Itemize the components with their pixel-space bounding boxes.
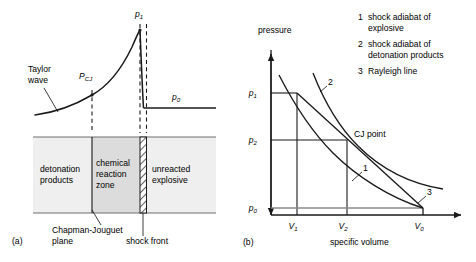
- y-tick-p1: p1: [248, 88, 257, 99]
- curve-3-marker-leader: [418, 196, 426, 203]
- panel-a: Taylor wave PCJ p1 p0 detonation product…: [12, 9, 216, 246]
- curve-3-marker: 3: [427, 187, 432, 197]
- curve-2-marker: 2: [328, 77, 333, 87]
- panel-a-tag: (a): [12, 236, 23, 246]
- p1-label-sub: 1: [140, 13, 143, 20]
- shock-front-label: shock front: [126, 236, 169, 246]
- panel-b: pressure specific volume p1 p2 p0 V1 V2 …: [243, 12, 461, 247]
- y-tick-p0-sub: 0: [254, 207, 258, 214]
- shock-front-band: [140, 137, 147, 213]
- chapman-jouguet-plane-label-line2: plane: [52, 236, 73, 246]
- p0-label: p0: [171, 92, 181, 103]
- curve-1-marker: 1: [363, 163, 368, 173]
- figure-root: Taylor wave PCJ p1 p0 detonation product…: [0, 0, 476, 262]
- p1-point-marker: [138, 28, 141, 31]
- region-detonation-products-line1: detonation: [40, 164, 80, 174]
- legend-item-3-line1: Rayleigh line: [368, 66, 417, 76]
- x-axis-label: specific volume: [330, 237, 389, 247]
- cj-point-label: CJ point: [354, 129, 386, 139]
- curve-3-rayleigh-line: [297, 93, 423, 208]
- legend-item-2-line1: shock adiabat of: [368, 39, 431, 49]
- x-tick-v0: V0: [414, 221, 424, 232]
- p0-label-sub: 0: [177, 96, 181, 103]
- legend-item-2-number: 2: [358, 39, 363, 49]
- legend-item-3-number: 3: [358, 66, 363, 76]
- panel-b-tag: (b): [243, 237, 254, 247]
- y-tick-p2-sub: 2: [253, 139, 258, 146]
- curve-2-marker-leader: [320, 86, 327, 92]
- p-cj-label: PCJ: [79, 71, 93, 82]
- x-tick-v0-sub: 0: [420, 225, 424, 232]
- y-tick-p0: p0: [248, 203, 258, 214]
- panel-a-pressure-profile: [35, 24, 216, 133]
- legend-item-1-line2: explosive: [368, 23, 404, 33]
- region-unreacted-explosive-line1: unreacted: [152, 164, 190, 174]
- panel-b-construction-lines: [271, 93, 423, 215]
- p1-label: p1: [134, 9, 143, 20]
- region-chemical-reaction-zone-line2: reaction: [96, 169, 127, 179]
- y-axis-label: pressure: [258, 25, 292, 35]
- legend-item-2-line2: detonation products: [368, 50, 444, 60]
- region-chemical-reaction-zone-line3: zone: [96, 180, 115, 190]
- p-cj-label-sub: CJ: [85, 75, 93, 82]
- legend-item-1-number: 1: [358, 12, 363, 22]
- chapman-jouguet-plane-label-line1: Chapman-Jouguet: [52, 225, 123, 235]
- x-tick-v2: V2: [338, 221, 348, 232]
- y-tick-p1-sub: 1: [254, 92, 257, 99]
- legend-item-1-line1: shock adiabat of: [368, 12, 431, 22]
- taylor-wave-label-line2: wave: [27, 75, 48, 85]
- x-tick-v1-sub: 1: [294, 225, 297, 232]
- region-chemical-reaction-zone-line1: chemical: [96, 158, 130, 168]
- x-tick-v2-sub: 2: [343, 225, 348, 232]
- taylor-wave-label-line1: Taylor: [28, 64, 51, 74]
- taylor-wave-leader: [44, 88, 58, 112]
- figure-svg: Taylor wave PCJ p1 p0 detonation product…: [0, 0, 476, 262]
- x-tick-v1: V1: [288, 221, 297, 232]
- region-unreacted-explosive-line2: explosive: [152, 175, 188, 185]
- panel-b-legend: 1 shock adiabat of explosive 2 shock adi…: [358, 12, 444, 76]
- y-tick-p2: p2: [248, 135, 258, 146]
- p-cj-point-marker: [90, 93, 93, 96]
- region-detonation-products-line2: products: [40, 175, 73, 185]
